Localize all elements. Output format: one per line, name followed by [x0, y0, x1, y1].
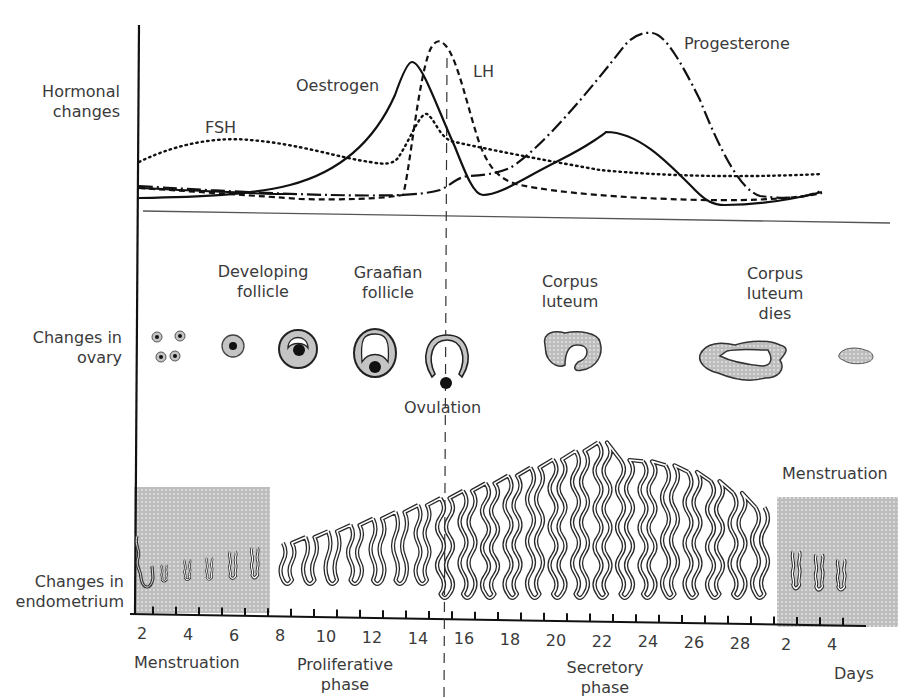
menstruation-start-label: Menstruation [134, 653, 240, 673]
day-tick-4: 4 [183, 625, 193, 644]
menstruation-end-label: Menstruation [782, 464, 888, 484]
day-tick-18: 18 [500, 630, 520, 649]
day-tick-4: 4 [827, 635, 837, 654]
secretory-phase-label: Secretory phase [555, 658, 655, 698]
menstrual-cycle-diagram [0, 0, 912, 698]
menstruation-shading-start [134, 487, 270, 613]
oestrogen-label: Oestrogen [296, 76, 379, 96]
day-tick-24: 24 [638, 632, 658, 651]
corpus-luteum-dying-icon [700, 341, 786, 380]
corpus-albicans-icon [839, 348, 873, 364]
day-tick-2: 2 [781, 635, 791, 654]
day-tick-14: 14 [408, 629, 428, 648]
lh-label: LH [473, 62, 494, 82]
day-tick-8: 8 [275, 626, 285, 645]
developing-follicle-large-icon [279, 330, 317, 368]
day-tick-6: 6 [229, 626, 239, 645]
graafian-follicle-label: Graafian follicle [348, 263, 428, 303]
developing-follicle-small-icon [222, 335, 244, 357]
day-tick-22: 22 [592, 632, 612, 651]
day-tick-10: 10 [316, 627, 336, 646]
day-tick-26: 26 [684, 633, 704, 652]
row-label-hormonal: Hormonal changes [10, 82, 120, 122]
fsh-label: FSH [205, 118, 236, 138]
graafian-follicle-icon [354, 329, 396, 377]
developing-follicle-label: Developing follicle [208, 262, 318, 302]
ovum-icon [440, 377, 452, 389]
corpus-luteum-icon [545, 332, 601, 371]
day-tick-2: 2 [137, 624, 147, 643]
day-tick-20: 20 [546, 631, 566, 650]
day-tick-28: 28 [730, 634, 750, 653]
ovulation-label: Ovulation [404, 398, 481, 418]
progesterone-curve [139, 33, 822, 198]
day-tick-16: 16 [454, 629, 474, 648]
days-label: Days [834, 664, 874, 684]
corpus-luteum-label: Corpus luteum [530, 272, 610, 312]
corpus-luteum-dies-label: Corpus luteum dies [740, 264, 810, 324]
row-label-endometrium: Changes in endometrium [0, 572, 124, 612]
ruptured-follicle-icon [426, 335, 468, 377]
hormone-curves [139, 33, 822, 205]
progesterone-label: Progesterone [684, 34, 790, 54]
day-tick-12: 12 [362, 628, 382, 647]
endometrium-glands [281, 442, 769, 598]
proliferative-phase-label: Proliferative phase [290, 655, 400, 695]
hormone-baseline [143, 211, 890, 223]
oestrogen-curve [139, 62, 822, 205]
row-label-ovary: Changes in ovary [10, 328, 122, 368]
